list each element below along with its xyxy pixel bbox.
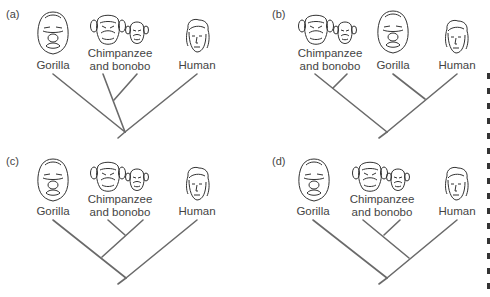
gorilla-face-icon	[375, 9, 411, 55]
taxon-label-chimpanzee: Chimpanzee and bonobo	[298, 47, 363, 73]
taxon-label-chimpanzee-line1: Chimpanzee	[88, 193, 153, 206]
panel-label-c: (c)	[6, 155, 19, 167]
taxon-label-human: Human	[178, 205, 215, 218]
gorilla-face-icon	[35, 157, 71, 203]
taxon-label-gorilla: Gorilla	[376, 59, 409, 72]
taxon-label-chimpanzee-line2: and bonobo	[88, 60, 153, 73]
chimpanzee-face-icon	[352, 160, 388, 193]
taxon-label-chimpanzee: Chimpanzee and bonobo	[88, 47, 153, 73]
bonobo-face-icon	[125, 20, 149, 46]
chimpanzee-face-icon	[90, 160, 126, 193]
taxon-label-chimpanzee-line2: and bonobo	[298, 60, 363, 73]
taxon-label-chimpanzee: Chimpanzee and bonobo	[88, 193, 153, 219]
taxon-label-chimpanzee-line2: and bonobo	[350, 206, 415, 219]
taxon-label-chimpanzee: Chimpanzee and bonobo	[350, 193, 415, 219]
taxon-label-human: Human	[438, 59, 475, 72]
human-face-icon	[182, 166, 212, 204]
tree-d	[313, 220, 457, 284]
taxon-label-chimpanzee-line1: Chimpanzee	[350, 193, 415, 206]
chimpanzee-face-icon	[298, 13, 334, 46]
gorilla-face-icon	[296, 157, 332, 203]
taxon-label-chimpanzee-line1: Chimpanzee	[298, 47, 363, 60]
panel-label-b: (b)	[272, 8, 285, 20]
panel-label-a: (a)	[6, 8, 19, 20]
taxon-label-chimpanzee-line2: and bonobo	[88, 206, 153, 219]
taxon-label-gorilla: Gorilla	[36, 205, 69, 218]
panel-label-d: (d)	[272, 155, 285, 167]
human-face-icon	[182, 18, 212, 56]
bonobo-face-icon	[125, 167, 149, 193]
taxon-label-human: Human	[178, 59, 215, 72]
tree-c	[53, 220, 197, 284]
gorilla-face-icon	[35, 10, 71, 56]
phylogeny-trees	[0, 0, 490, 297]
taxon-label-gorilla: Gorilla	[296, 205, 329, 218]
bonobo-face-icon	[333, 20, 357, 46]
chimpanzee-face-icon	[90, 13, 126, 46]
human-face-icon	[441, 166, 471, 204]
taxon-label-human: Human	[438, 205, 475, 218]
tree-a	[53, 74, 197, 138]
tree-b	[315, 74, 457, 138]
taxon-label-gorilla: Gorilla	[36, 59, 69, 72]
human-face-icon	[441, 19, 471, 57]
bonobo-face-icon	[386, 167, 410, 193]
taxon-label-chimpanzee-line1: Chimpanzee	[88, 47, 153, 60]
